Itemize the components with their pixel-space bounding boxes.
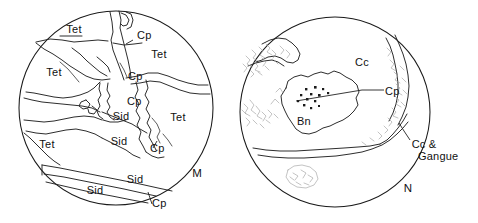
label-sid-3: Sid [127, 173, 144, 185]
panel-M-labels: Tet Cp Tet Tet Cp Cp Sid Tet Tet Sid Cp … [39, 23, 185, 209]
panel-M-circle [19, 11, 213, 205]
label-cp-5: Cp [152, 197, 166, 209]
panel-label-n: N [404, 182, 412, 194]
panel-N-bornite-outline [281, 71, 359, 134]
label-cc-and: Cc & [412, 138, 437, 150]
panel-N-circle [240, 17, 430, 207]
panel-N-chalcopyrite-specks [297, 86, 329, 109]
figure-svg: Tet Cp Tet Tet Cp Cp Sid Tet Tet Sid Cp … [0, 0, 478, 223]
label-tet-1: Tet [66, 23, 81, 35]
label-cp-bornite: Cp [385, 85, 399, 97]
leader-cp-top [126, 40, 133, 44]
panel-label-m: M [192, 167, 202, 179]
label-gangue: Gangue [418, 150, 458, 162]
label-sid-1: Sid [113, 110, 130, 122]
label-cp-2: Cp [128, 70, 142, 82]
panel-M-fine-lines [60, 62, 172, 146]
panel-M: Tet Cp Tet Tet Cp Cp Sid Tet Tet Sid Cp … [19, 11, 213, 209]
panel-N-texture-left [242, 88, 283, 128]
panel-N-texture-bottom [286, 165, 318, 188]
label-tet-2: Tet [151, 48, 166, 60]
panel-N: Cc Cp Bn Cc & Gangue N [240, 17, 458, 207]
label-cc: Cc [355, 56, 369, 68]
label-tet-4: Tet [170, 111, 185, 123]
figure-container: Tet Cp Tet Tet Cp Cp Sid Tet Tet Sid Cp … [0, 0, 478, 223]
label-sid-2: Sid [111, 135, 128, 147]
leader-cp-bornite [296, 90, 380, 101]
label-tet-3: Tet [46, 66, 61, 78]
panel-M-grain-boundaries [24, 11, 210, 203]
label-sid-4: Sid [87, 184, 104, 196]
label-cp-4: Cp [150, 142, 164, 154]
label-tet-5: Tet [39, 138, 54, 150]
label-bn: Bn [297, 115, 311, 127]
label-cp-3: Cp [127, 95, 141, 107]
label-cp-1: Cp [137, 29, 151, 41]
